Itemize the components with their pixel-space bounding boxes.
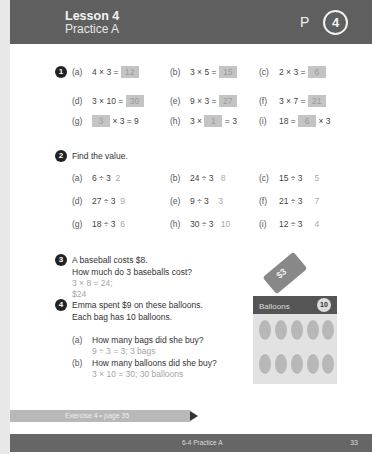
item-label: (b) <box>170 172 190 184</box>
part-label: (b) <box>72 357 92 369</box>
item-expression: 27 ÷ 3 <box>92 196 116 206</box>
q4-line-1: Emma spent $9 on these balloons. <box>72 299 203 311</box>
q3-line-1: A baseball costs $8. <box>72 254 148 266</box>
answer-box: 21 <box>308 95 326 107</box>
part-question: How many bags did she buy? <box>92 335 204 345</box>
package-count-badge: 10 <box>317 298 331 312</box>
item-answer: 7 <box>314 196 319 206</box>
item-label: (b) <box>170 66 190 78</box>
item-expression: 3 × 5 = <box>190 67 216 77</box>
q2-item-a: (a)6 ÷ 3 2 <box>72 172 120 184</box>
q1-item-a: (a)4 × 3 = 12 <box>72 66 139 78</box>
balloon-package-header: Balloons 10 <box>253 296 337 314</box>
item-expression: 3 × 7 = <box>279 96 305 106</box>
q2-item-d: (d)27 ÷ 3 9 <box>72 195 125 207</box>
answer-box: 15 <box>219 66 237 78</box>
q2-item-f: (f)21 ÷ 3 7 <box>259 195 319 207</box>
question-number-3: 3 <box>55 254 67 266</box>
item-label: (g) <box>72 218 92 230</box>
answer-box: 1 <box>204 115 222 127</box>
item-expression: 3 × 10 = <box>92 96 123 106</box>
q1-item-b: (b)3 × 5 = 15 <box>170 66 237 78</box>
q4-part-a-question: (a)How many bags did she buy? <box>72 334 204 346</box>
item-expression: 4 × 3 = <box>92 67 118 77</box>
item-label: (a) <box>72 172 92 184</box>
item-expression: 9 ÷ 3 <box>190 196 209 206</box>
item-expression: 6 ÷ 3 <box>92 173 111 183</box>
balloon-package-body <box>253 314 337 384</box>
answer-box: 6 <box>308 66 326 78</box>
q1-item-g: (g)3 × 3 = 9 <box>72 115 139 127</box>
practice-label: P <box>300 14 309 30</box>
lesson-subtitle: Practice A <box>65 23 119 36</box>
item-label: (e) <box>170 95 190 107</box>
q3-line-2: How much do 3 baseballs cost? <box>72 266 192 278</box>
answer-box: 27 <box>219 95 237 107</box>
item-expression: 21 ÷ 3 <box>279 196 303 206</box>
item-expression: 18 = <box>279 116 296 126</box>
q2-item-h: (h)30 ÷ 3 10 <box>170 218 230 230</box>
item-answer: 8 <box>221 173 226 183</box>
practice-number-badge: 4 <box>323 10 348 35</box>
item-label: (d) <box>72 195 92 207</box>
lesson-header: Lesson 4 Practice A P 4 <box>10 0 372 44</box>
q4-line-2: Each bag has 10 balloons. <box>72 311 172 323</box>
item-answer: 3 <box>218 196 223 206</box>
item-answer: 9 <box>120 196 125 206</box>
q1-item-h: (h)3 × 1 = 3 <box>170 115 237 127</box>
workbook-page: Lesson 4 Practice A P 4 1 (a)4 × 3 = 12 … <box>10 0 372 454</box>
item-expression: 9 × 3 = <box>190 96 216 106</box>
item-label: (i) <box>259 218 279 230</box>
item-expression: 2 × 3 = <box>279 67 305 77</box>
item-expression-end: = 3 <box>225 116 237 126</box>
item-expression: × 3 = 9 <box>112 116 138 126</box>
q4-part-b-answer: 3 × 10 = 30; 30 balloons <box>92 369 183 380</box>
q4-part-a-answer: 9 ÷ 3 = 3; 3 bags <box>92 346 156 357</box>
price-tag-icon: $3 <box>263 252 308 295</box>
arrow-right-icon <box>190 411 198 421</box>
item-answer: 10 <box>221 219 230 229</box>
answer-box: 3 <box>92 115 110 127</box>
part-label: (a) <box>72 334 92 346</box>
answer-box: 6 <box>298 115 316 127</box>
question-number-1: 1 <box>55 66 67 78</box>
q1-item-i: (i)18 = 6 × 3 <box>259 115 331 127</box>
answer-box: 30 <box>126 95 144 107</box>
item-expression: 12 ÷ 3 <box>279 219 303 229</box>
item-label: (f) <box>259 95 279 107</box>
q3-answer-work: 3 × 8 = 24; <box>72 278 113 289</box>
page-number: 33 <box>350 434 358 452</box>
item-answer: 2 <box>116 173 121 183</box>
q2-item-i: (i)12 ÷ 3 4 <box>259 218 319 230</box>
q4-part-b-question: (b)How many balloons did she buy? <box>72 357 217 369</box>
question-number-2: 2 <box>55 150 67 162</box>
part-question: How many balloons did she buy? <box>92 358 217 368</box>
exercise-banner-text: Exercise 4 • page 35 <box>65 410 129 422</box>
item-answer: 5 <box>314 173 319 183</box>
q2-item-b: (b)24 ÷ 3 8 <box>170 172 225 184</box>
item-expression-end: × 3 <box>319 116 331 126</box>
q1-item-e: (e)9 × 3 = 27 <box>170 95 237 107</box>
item-label: (f) <box>259 195 279 207</box>
item-label: (a) <box>72 66 92 78</box>
item-label: (c) <box>259 66 279 78</box>
q2-item-g: (g)18 ÷ 3 6 <box>72 218 125 230</box>
item-answer: 6 <box>120 219 125 229</box>
item-label: (h) <box>170 218 190 230</box>
q2-item-e: (e)9 ÷ 3 3 <box>170 195 223 207</box>
item-label: (d) <box>72 95 92 107</box>
item-answer: 4 <box>314 219 319 229</box>
item-label: (g) <box>72 115 92 127</box>
q1-item-c: (c)2 × 3 = 6 <box>259 66 326 78</box>
answer-box: 12 <box>121 66 139 78</box>
package-label: Balloons <box>259 302 290 311</box>
q1-item-f: (f)3 × 7 = 21 <box>259 95 326 107</box>
footer-section-label: 6-4 Practice A <box>182 434 222 452</box>
balloons-icon <box>253 314 337 384</box>
item-label: (h) <box>170 115 190 127</box>
exercise-banner[interactable]: Exercise 4 • page 35 <box>10 410 190 422</box>
page-footer: 6-4 Practice A 33 <box>10 434 372 452</box>
item-expression: 3 × <box>190 116 202 126</box>
item-label: (c) <box>259 172 279 184</box>
question-number-4: 4 <box>55 299 67 311</box>
